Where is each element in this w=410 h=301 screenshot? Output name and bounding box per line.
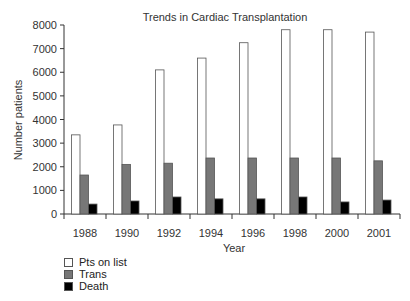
bar bbox=[257, 199, 266, 214]
bar bbox=[206, 158, 215, 214]
bar bbox=[324, 30, 333, 214]
bar bbox=[80, 175, 89, 214]
legend-item-death: Death bbox=[64, 280, 127, 292]
legend-swatch-icon bbox=[64, 282, 73, 291]
bar bbox=[240, 43, 249, 214]
y-tick-label: 7000 bbox=[33, 43, 57, 55]
y-tick-label: 6000 bbox=[33, 66, 57, 78]
y-tick-label: 0 bbox=[51, 208, 57, 220]
bar bbox=[299, 197, 308, 214]
x-tick-label: 1998 bbox=[283, 227, 307, 239]
y-tick-label: 5000 bbox=[33, 90, 57, 102]
legend-label: Trans bbox=[79, 268, 107, 280]
y-tick-label: 1000 bbox=[33, 184, 57, 196]
bar bbox=[366, 32, 375, 214]
bar bbox=[341, 202, 350, 214]
y-tick-label: 3000 bbox=[33, 137, 57, 149]
bar bbox=[282, 30, 291, 214]
x-tick-label: 2001 bbox=[367, 227, 391, 239]
bar bbox=[164, 163, 173, 214]
x-tick-label: 1990 bbox=[115, 227, 139, 239]
y-axis-label: Number patients bbox=[12, 79, 24, 160]
legend-swatch-icon bbox=[64, 258, 73, 267]
x-axis: 19881990199219941996199820002001 bbox=[64, 214, 400, 239]
bar bbox=[332, 158, 341, 214]
x-axis-label: Year bbox=[223, 242, 246, 254]
legend-label: Death bbox=[79, 280, 108, 292]
legend: Pts on list Trans Death bbox=[64, 256, 127, 292]
bar bbox=[215, 199, 224, 214]
chart-title: Trends in Cardiac Transplantation bbox=[143, 11, 308, 23]
y-tick-label: 8000 bbox=[33, 19, 57, 31]
bar bbox=[89, 204, 98, 214]
y-tick-label: 4000 bbox=[33, 114, 57, 126]
bar bbox=[131, 201, 140, 214]
legend-swatch-icon bbox=[64, 270, 73, 279]
bar-chart: Trends in Cardiac Transplantation 010002… bbox=[0, 0, 410, 256]
x-tick-label: 1994 bbox=[199, 227, 223, 239]
bar bbox=[248, 158, 257, 214]
x-tick-label: 1992 bbox=[157, 227, 181, 239]
bar bbox=[383, 200, 392, 214]
bar bbox=[374, 161, 383, 214]
legend-label: Pts on list bbox=[79, 256, 127, 268]
legend-item-trans: Trans bbox=[64, 268, 127, 280]
bar bbox=[122, 164, 131, 214]
bar bbox=[173, 197, 182, 214]
bar bbox=[72, 135, 81, 214]
bar bbox=[156, 70, 165, 214]
x-tick-label: 2000 bbox=[325, 227, 349, 239]
bars bbox=[72, 30, 392, 214]
legend-item-pts-on-list: Pts on list bbox=[64, 256, 127, 268]
bar bbox=[114, 125, 123, 214]
bar bbox=[290, 158, 299, 214]
y-tick-label: 2000 bbox=[33, 161, 57, 173]
y-axis: 010002000300040005000600070008000 bbox=[33, 19, 64, 220]
x-tick-label: 1996 bbox=[241, 227, 265, 239]
bar bbox=[198, 58, 207, 214]
x-tick-label: 1988 bbox=[73, 227, 97, 239]
